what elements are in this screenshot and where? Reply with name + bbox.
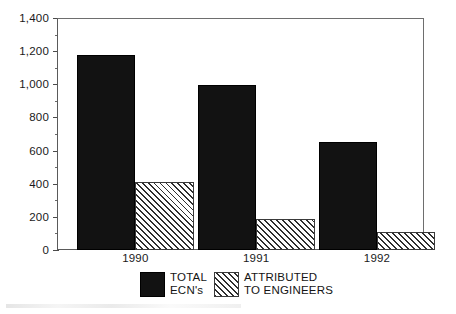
bar-group-1991 xyxy=(198,19,315,250)
y-tick-label-0: 0 xyxy=(42,244,49,256)
y-major-tick xyxy=(53,250,59,251)
x-tick-label-1992: 1992 xyxy=(364,252,390,264)
y-tick-label-600: 600 xyxy=(29,145,49,157)
x-tick-label-1990: 1990 xyxy=(122,252,148,264)
bar-attributed-1991[interactable] xyxy=(256,219,314,250)
y-tick-label-200: 200 xyxy=(29,211,49,223)
legend-entry-total[interactable]: TOTAL ECN's xyxy=(140,271,207,297)
legend-label-total-line1: TOTAL xyxy=(170,271,207,284)
legend-label-attributed-line1: ATTRIBUTED xyxy=(244,271,333,284)
x-axis-labels: 1990 1991 1992 xyxy=(58,252,423,270)
legend-label-total-line2: ECN's xyxy=(170,284,207,297)
scan-artifact xyxy=(6,304,241,308)
bar-total-1990[interactable] xyxy=(77,55,135,250)
y-tick-label-400: 400 xyxy=(29,178,49,190)
y-tick-label-800: 800 xyxy=(29,111,49,123)
legend-label-total: TOTAL ECN's xyxy=(170,271,207,297)
y-tick-label-1400: 1,400 xyxy=(19,12,49,24)
bar-attributed-1990[interactable] xyxy=(135,182,193,250)
bar-total-1992[interactable] xyxy=(319,142,377,250)
bar-attributed-1992[interactable] xyxy=(377,232,435,250)
bar-group-1992 xyxy=(319,19,436,250)
bar-chart-figure: 1,400 1,200 1,000 800 600 400 200 0 xyxy=(0,0,456,314)
y-tick-label-1200: 1,200 xyxy=(19,45,49,57)
legend-entry-attributed[interactable]: ATTRIBUTED TO ENGINEERS xyxy=(214,271,333,297)
x-tick-label-1991: 1991 xyxy=(243,252,269,264)
legend-label-attributed: ATTRIBUTED TO ENGINEERS xyxy=(244,271,333,297)
bars-layer xyxy=(58,19,423,250)
legend-label-attributed-line2: TO ENGINEERS xyxy=(244,284,333,297)
bar-group-1990 xyxy=(77,19,194,250)
chart-legend: TOTAL ECN's ATTRIBUTED TO ENGINEERS xyxy=(140,271,333,297)
solid-black-swatch xyxy=(140,272,165,297)
y-axis-labels: 1,400 1,200 1,000 800 600 400 200 0 xyxy=(0,18,49,250)
hatched-swatch xyxy=(214,272,239,297)
y-tick-label-1000: 1,000 xyxy=(19,78,49,90)
bar-total-1991[interactable] xyxy=(198,85,256,250)
